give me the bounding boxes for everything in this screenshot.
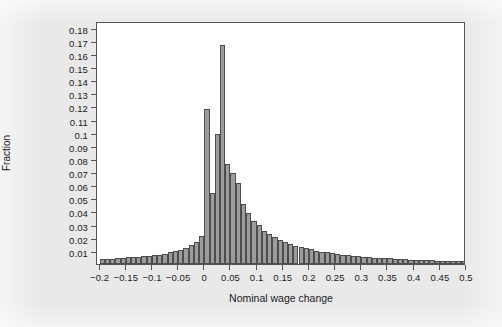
y-tick-label: 0.02 xyxy=(69,234,88,245)
y-tick-label: 0.05 xyxy=(69,195,88,206)
x-tick-mark xyxy=(125,265,126,270)
x-tick-label: 0.45 xyxy=(430,272,449,283)
x-tick-mark xyxy=(151,265,152,270)
plot-area xyxy=(96,22,465,265)
x-tick-mark xyxy=(334,265,335,270)
y-tick-label: 0.06 xyxy=(69,182,88,193)
y-tick-label: 0.01 xyxy=(69,247,88,258)
y-tick-label: 0.17 xyxy=(69,37,88,48)
y-tick-label: 0.1 xyxy=(74,129,88,140)
y-tick-label: 0.03 xyxy=(69,221,88,232)
histogram-figure: Fraction 0.010.020.030.040.050.060.070.0… xyxy=(0,0,502,327)
y-tick-label: 0.11 xyxy=(70,116,88,127)
x-tick-label: 0 xyxy=(202,272,207,283)
y-tick-label: 0.09 xyxy=(69,142,88,153)
y-tick-label: 0.08 xyxy=(69,155,88,166)
y-axis-title: Fraction xyxy=(1,135,12,171)
x-tick-label: 0.1 xyxy=(250,272,264,283)
plot-inner xyxy=(97,23,464,264)
figure-page: Fraction 0.010.020.030.040.050.060.070.0… xyxy=(0,0,502,327)
x-tick-label: 0.3 xyxy=(355,272,369,283)
y-tick-label: 0.13 xyxy=(69,90,88,101)
y-tick-label: 0.16 xyxy=(69,50,88,61)
y-tick-label: 0.15 xyxy=(69,63,88,74)
x-tick-label: 0.25 xyxy=(326,272,345,283)
x-tick-label: 0.35 xyxy=(378,272,397,283)
x-tick-label: −0.2 xyxy=(90,272,109,283)
y-tick-label: 0.04 xyxy=(69,208,88,219)
x-tick-label: 0.2 xyxy=(302,272,316,283)
x-tick-label: 0.5 xyxy=(459,272,473,283)
y-tick-label: 0.07 xyxy=(69,169,88,180)
x-tick-label: 0.15 xyxy=(273,272,292,283)
x-axis-title: Nominal wage change xyxy=(96,292,466,304)
y-axis: Fraction 0.010.020.030.040.050.060.070.0… xyxy=(0,22,96,266)
x-tick-label: −0.05 xyxy=(166,272,191,283)
histogram-bar xyxy=(461,261,464,264)
x-tick-label: −0.1 xyxy=(142,272,161,283)
y-tick-label: 0.12 xyxy=(69,103,88,114)
histogram-bars xyxy=(97,23,464,264)
y-tick-label: 0.18 xyxy=(69,24,88,35)
x-tick-mark xyxy=(308,265,309,270)
x-tick-mark xyxy=(282,265,283,270)
x-tick-label: 0.4 xyxy=(407,272,421,283)
x-tick-label: −0.15 xyxy=(114,272,139,283)
x-tick-mark xyxy=(465,265,466,270)
x-tick-mark xyxy=(256,265,257,270)
x-tick-mark xyxy=(229,265,230,270)
x-tick-label: 0.05 xyxy=(221,272,240,283)
x-tick-mark xyxy=(177,265,178,270)
y-tick-label: 0.14 xyxy=(69,77,88,88)
x-tick-mark xyxy=(203,265,204,270)
x-tick-mark xyxy=(413,265,414,270)
x-tick-mark xyxy=(99,265,100,270)
x-tick-mark xyxy=(386,265,387,270)
x-tick-mark xyxy=(360,265,361,270)
x-tick-mark xyxy=(439,265,440,270)
